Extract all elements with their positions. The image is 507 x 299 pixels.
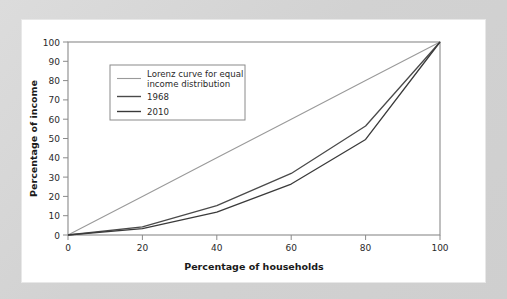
y-axis-ticks	[63, 42, 68, 235]
x-tick-label: 80	[360, 243, 372, 253]
y-tick-label: 90	[49, 57, 61, 67]
lorenz-curve-chart: 100 90 80 70 60 50 40 30 20 10 0	[22, 20, 485, 282]
legend-label-equal-distribution-line2: income distribution	[147, 79, 230, 89]
y-axis-tick-labels: 100 90 80 70 60 50 40 30 20 10 0	[43, 38, 60, 241]
y-tick-label: 40	[49, 153, 61, 163]
y-tick-label: 60	[49, 115, 61, 125]
y-tick-label: 10	[49, 211, 61, 221]
x-axis-tick-labels: 0 20 40 60 80 100	[65, 243, 449, 253]
y-tick-label: 100	[43, 38, 60, 48]
figure-card: 100 90 80 70 60 50 40 30 20 10 0	[22, 20, 485, 282]
y-axis-title: Percentage of income	[28, 80, 39, 197]
x-tick-label: 0	[65, 243, 71, 253]
legend-label-1968: 1968	[147, 92, 169, 102]
x-axis-ticks	[68, 235, 440, 240]
legend-label-2010: 2010	[147, 107, 169, 117]
x-tick-label: 40	[211, 243, 223, 253]
y-tick-label: 80	[49, 76, 61, 86]
y-tick-label: 30	[49, 173, 61, 183]
x-tick-label: 20	[137, 243, 149, 253]
legend-label-equal-distribution-line1: Lorenz curve for equal	[147, 69, 243, 79]
y-tick-label: 20	[49, 192, 61, 202]
y-tick-label: 70	[49, 95, 61, 105]
y-tick-label: 50	[49, 134, 61, 144]
x-axis-title: Percentage of households	[184, 261, 324, 272]
chart-legend: Lorenz curve for equal income distributi…	[110, 65, 245, 120]
x-tick-label: 60	[285, 243, 297, 253]
x-tick-label: 100	[431, 243, 448, 253]
y-tick-label: 0	[54, 231, 60, 241]
